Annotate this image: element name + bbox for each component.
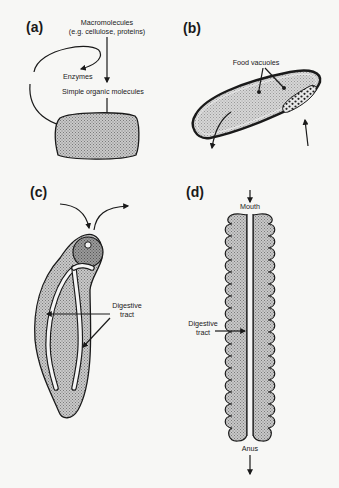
panel-c: (c) Digestive tract: [30, 184, 142, 418]
panel-c-label: (c): [30, 184, 47, 200]
panel-b-label: (b): [183, 20, 201, 36]
panel-d-label: (d): [186, 184, 204, 200]
mouth-opening: [85, 242, 91, 248]
panel-a-label: (a): [26, 19, 43, 35]
digestive-tract-label-d-2: tract: [196, 328, 210, 337]
digestive-tract-label-d-1: Digestive: [188, 319, 218, 328]
entry-arrow: [305, 120, 308, 146]
panel-b: (b) Food vacuoles: [183, 20, 320, 148]
cell-shape: [55, 113, 139, 159]
macromolecules-label: Macromolecules: [81, 18, 134, 27]
digestive-tract-label-c-2: tract: [120, 310, 134, 319]
macromolecules-examples-label: (e.g. cellulose, proteins): [69, 27, 145, 36]
outgoing-waste-arrow: [94, 206, 128, 230]
incoming-food-arrow: [60, 204, 89, 228]
earthworm-right-wall: [253, 214, 275, 441]
digestion-diagram: (a) Macromolecules (e.g. cellulose, prot…: [0, 0, 339, 488]
panel-a: (a) Macromolecules (e.g. cellulose, prot…: [26, 18, 145, 159]
simple-molecules-label: Simple organic molecules: [62, 87, 144, 96]
food-vacuole-1: [257, 90, 261, 94]
digestive-tract-label-c-1: Digestive: [112, 301, 142, 310]
earthworm-left-wall: [225, 214, 247, 441]
anus-label: Anus: [242, 444, 259, 453]
food-vacuole-2: [282, 86, 286, 90]
digestive-tube: [247, 214, 253, 438]
enzymes-label: Enzymes: [63, 72, 93, 81]
mouth-label: Mouth: [240, 202, 260, 211]
food-vacuoles-label: Food vacuoles: [233, 58, 280, 67]
panel-d: (d) Mouth Digestive tract Anus: [186, 184, 275, 474]
enzymes-curved-arrow: [34, 46, 101, 72]
